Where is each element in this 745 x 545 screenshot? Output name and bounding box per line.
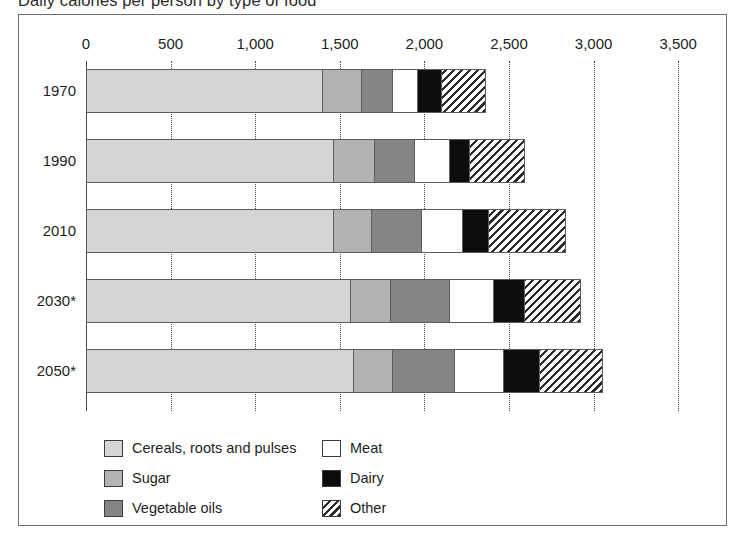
- x-tick-label-3000: 3,000: [575, 35, 613, 52]
- stacked-bar-1970[interactable]: [86, 69, 486, 113]
- stacked-bar-1990[interactable]: [86, 139, 525, 183]
- y-tick-label-1990: 1990: [43, 152, 76, 169]
- bar-segment-meat[interactable]: [393, 70, 418, 112]
- bar-segment-other[interactable]: [470, 140, 524, 182]
- bar-segment-other[interactable]: [442, 70, 485, 112]
- bar-segment-sugar[interactable]: [323, 70, 363, 112]
- bar-segment-meat[interactable]: [450, 280, 494, 322]
- bar-segment-other[interactable]: [525, 280, 580, 322]
- legend-swatch-meat-icon: [322, 440, 341, 457]
- legend-swatch-sugar-icon: [104, 470, 123, 487]
- legend-swatch-other-icon: [322, 500, 341, 517]
- x-tick-label-1500: 1,500: [321, 35, 359, 52]
- legend-column-left: Cereals, roots and pulsesSugarVegetable …: [104, 433, 296, 523]
- stacked-bar-2010[interactable]: [86, 209, 566, 253]
- bar-segment-meat[interactable]: [422, 210, 463, 252]
- y-axis-tick-labels: 1970199020102030*2050*: [19, 61, 76, 411]
- stacked-bar-2050[interactable]: [86, 349, 603, 393]
- chart-frame: 05001,0001,5002,0002,5003,0003,500 19701…: [18, 14, 727, 526]
- legend-label: Cereals, roots and pulses: [132, 440, 296, 456]
- bar-segment-vegetable-oils[interactable]: [393, 350, 456, 392]
- y-tick-label-2050: 2050*: [37, 362, 76, 379]
- bar-segment-sugar[interactable]: [354, 350, 393, 392]
- bar-segment-dairy[interactable]: [418, 70, 442, 112]
- bar-segment-sugar[interactable]: [334, 140, 375, 182]
- legend-item-meat[interactable]: Meat: [322, 433, 386, 463]
- chart-title: Daily calories per person by type of foo…: [18, 0, 317, 10]
- legend-swatch-vegoils-icon: [104, 500, 123, 517]
- x-tick-label-2500: 2,500: [490, 35, 528, 52]
- bar-segment-dairy[interactable]: [463, 210, 489, 252]
- legend-label: Vegetable oils: [132, 500, 222, 516]
- bar-segment-dairy[interactable]: [504, 350, 540, 392]
- legend-item-other[interactable]: Other: [322, 493, 386, 523]
- legend-label: Dairy: [350, 470, 384, 486]
- stacked-bar-2030[interactable]: [86, 279, 581, 323]
- x-tick-label-2000: 2,000: [406, 35, 444, 52]
- legend-label: Sugar: [132, 470, 171, 486]
- bar-segment-vegetable-oils[interactable]: [372, 210, 423, 252]
- bar-segment-cereals[interactable]: [87, 210, 334, 252]
- bar-segment-other[interactable]: [489, 210, 565, 252]
- bar-segment-meat[interactable]: [455, 350, 504, 392]
- bar-segment-sugar[interactable]: [334, 210, 372, 252]
- bar-segment-meat[interactable]: [415, 140, 450, 182]
- legend-item-sugar[interactable]: Sugar: [104, 463, 296, 493]
- bar-segment-other[interactable]: [540, 350, 602, 392]
- y-tick-label-2010: 2010: [43, 222, 76, 239]
- bar-segment-dairy[interactable]: [494, 280, 525, 322]
- y-tick-label-1970: 1970: [43, 82, 76, 99]
- bar-segment-cereals[interactable]: [87, 350, 354, 392]
- bar-segment-cereals[interactable]: [87, 140, 334, 182]
- bar-segment-cereals[interactable]: [87, 70, 323, 112]
- legend-item-cereals[interactable]: Cereals, roots and pulses: [104, 433, 296, 463]
- bar-segment-vegetable-oils[interactable]: [362, 70, 393, 112]
- legend-label: Meat: [350, 440, 382, 456]
- legend-item-vegoils[interactable]: Vegetable oils: [104, 493, 296, 523]
- bar-segment-vegetable-oils[interactable]: [391, 280, 451, 322]
- legend-item-dairy[interactable]: Dairy: [322, 463, 386, 493]
- plot-area: [86, 61, 706, 411]
- x-tick-label-1000: 1,000: [236, 35, 274, 52]
- bar-segment-sugar[interactable]: [351, 280, 391, 322]
- bar-segment-vegetable-oils[interactable]: [375, 140, 416, 182]
- legend-swatch-dairy-icon: [322, 470, 341, 487]
- x-axis-tick-labels: 05001,0001,5002,0002,5003,0003,500: [86, 35, 726, 57]
- bar-segment-cereals[interactable]: [87, 280, 351, 322]
- x-tick-label-500: 500: [158, 35, 183, 52]
- bar-segment-dairy[interactable]: [450, 140, 470, 182]
- x-tick-label-0: 0: [82, 35, 90, 52]
- legend-label: Other: [350, 500, 386, 516]
- legend-swatch-cereals-icon: [104, 440, 123, 457]
- y-tick-label-2030: 2030*: [37, 292, 76, 309]
- x-tick-label-3500: 3,500: [659, 35, 697, 52]
- gridline-3500: [678, 61, 679, 411]
- legend-column-right: MeatDairyOther: [322, 433, 386, 523]
